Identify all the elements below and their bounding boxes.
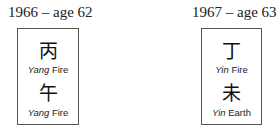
branch-label: Yin Earth	[202, 107, 261, 118]
stem-element: Fire	[52, 64, 68, 75]
pillar-title: 1967 – age 63	[192, 4, 277, 21]
pillar-title: 1966 – age 62	[8, 4, 93, 21]
stem-character: 丁	[202, 41, 261, 61]
branch-character: 午	[18, 83, 78, 103]
branch-polarity: Yang	[28, 107, 49, 118]
branch-label: Yang Fire	[18, 107, 78, 118]
stem-character: 丙	[18, 41, 78, 61]
stem-label: Yin Fire	[202, 64, 261, 75]
stem-polarity: Yin	[215, 64, 229, 75]
branch-character: 未	[202, 83, 261, 103]
pillar-box: 丙 Yang Fire 午 Yang Fire	[17, 28, 79, 125]
pillar-box: 丁 Yin Fire 未 Yin Earth	[201, 28, 262, 125]
branch-element: Fire	[52, 107, 68, 118]
branch-polarity: Yin	[212, 107, 226, 118]
stem-polarity: Yang	[28, 64, 49, 75]
branch-element: Earth	[228, 107, 251, 118]
stem-element: Fire	[231, 64, 247, 75]
stem-label: Yang Fire	[18, 64, 78, 75]
